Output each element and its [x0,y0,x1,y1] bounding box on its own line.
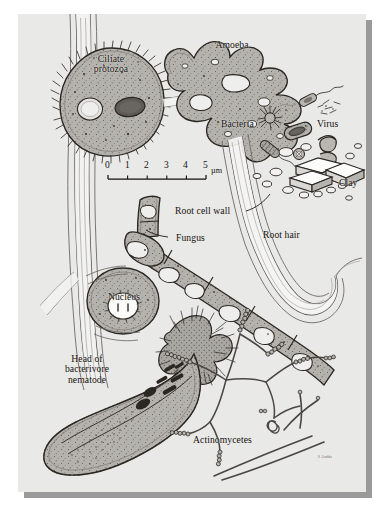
label-clay: Clay [339,178,366,188]
scale-bar-graphic [108,175,206,179]
scale-tick-2: 2 [144,160,149,170]
illustration-plate: Ciliate protozoa Amoeba Bacteria Virus C… [18,14,366,492]
nematode-shape [44,306,238,475]
bacterium-rod-flagellate-upper [298,79,343,108]
scale-tick-3: 3 [164,160,169,170]
label-nematode: Head of bacterivore nematode [50,354,124,385]
illustration-figure: Ciliate protozoa Amoeba Bacteria Virus C… [0,0,378,508]
scale-tick-4: 4 [183,160,188,170]
scale-unit-label: µm [211,166,222,175]
label-root-cell-wall: Root cell wall [175,206,259,216]
label-bacteria: Bacteria [221,119,275,129]
label-fungus: Fungus [176,233,228,243]
label-root-hair: Root hair [263,230,325,240]
label-amoeba: Amoeba [201,40,263,50]
label-actinomycetes: Actinomycetes [193,435,277,445]
artist-signature: S. Grubbs [318,455,332,459]
scale-tick-0: 0 [105,160,110,170]
soil-microbes-drawing [18,14,366,492]
actinomycete-coil [267,421,279,433]
label-ciliate-protozoa: Ciliate protozoa [74,54,148,75]
label-nucleus: Nucleus [98,292,150,302]
scale-tick-1: 1 [125,160,130,170]
virus-group [318,100,340,114]
scale-tick-5: 5 [203,160,208,170]
spore-pair [259,409,267,413]
label-virus: Virus [317,119,359,129]
